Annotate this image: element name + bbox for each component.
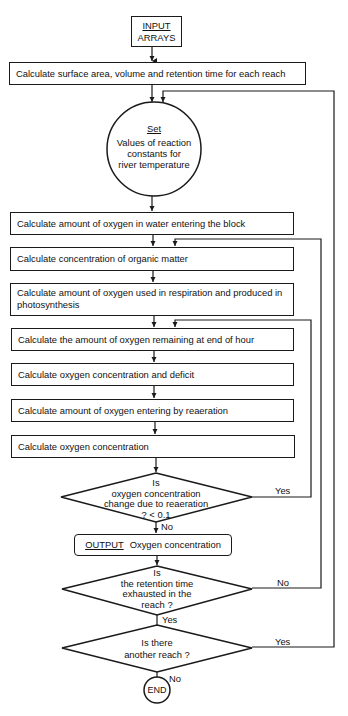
decision-another-reach: Is there another reach ? (107, 637, 207, 661)
set-reaction-constants-circle: Set Values of reaction constants for riv… (107, 123, 201, 170)
step-text: Calculate concentration of organic matte… (17, 253, 188, 265)
decision1-yes-label: Yes (275, 486, 290, 496)
step-oxygen-remaining-box: Calculate the amount of oxygen remaining… (11, 328, 294, 351)
step-reaeration-box: Calculate amount of oxygen entering by r… (11, 399, 294, 422)
step-text: Calculate amount of oxygen in water ente… (17, 218, 245, 230)
input-label: INPUT (142, 20, 170, 32)
step-concentration-deficit-box: Calculate oxygen concentration and defic… (11, 363, 294, 386)
set-line-2: constants for (107, 148, 201, 159)
output-text: Oxygen concentration (130, 539, 221, 551)
arrays-label: ARRAYS (138, 32, 176, 44)
output-keyword: OUTPUT (85, 539, 124, 551)
decision3-yes-label: Yes (275, 637, 290, 647)
decision3-line-2: another reach ? (107, 649, 207, 661)
decision2-line-4: reach ? (97, 600, 217, 611)
decision2-no-label: No (277, 578, 289, 588)
end-terminal: END (144, 685, 170, 696)
step-surface-area-box: Calculate surface area, volume and reten… (9, 62, 306, 85)
decision-reaeration-change: Is oxygen concentration change due to re… (86, 478, 226, 520)
input-arrays-box: INPUT ARRAYS (131, 16, 182, 47)
set-title: Set (107, 123, 201, 134)
step-text: Calculate amount of oxygen used in respi… (17, 287, 287, 311)
step-text: Calculate amount of oxygen entering by r… (18, 405, 228, 417)
decision2-yes-label: Yes (162, 615, 177, 625)
set-line-3: river temperature (107, 159, 201, 170)
decision2-line-3: exhausted in the (97, 589, 217, 600)
decision1-line-1: Is (86, 478, 226, 489)
decision3-no-label: No (169, 674, 181, 684)
decision2-line-1: Is (97, 568, 217, 579)
output-oxygen-concentration-box: OUTPUT Oxygen concentration (74, 534, 232, 556)
step-organic-matter-box: Calculate concentration of organic matte… (10, 247, 294, 271)
step-text: Calculate oxygen concentration (18, 441, 149, 453)
step-text: Calculate oxygen concentration and defic… (18, 369, 194, 381)
step-text: Calculate the amount of oxygen remaining… (18, 334, 254, 346)
step-oxygen-entering-box: Calculate amount of oxygen in water ente… (10, 212, 294, 235)
step-respiration-photosynthesis-box: Calculate amount of oxygen used in respi… (10, 283, 294, 316)
decision3-line-1: Is there (107, 637, 207, 649)
decision1-no-label: No (161, 522, 173, 532)
step-text: Calculate surface area, volume and reten… (16, 68, 285, 80)
decision-retention-time: Is the retention time exhausted in the r… (97, 568, 217, 610)
decision1-line-3: change due to reaeration (86, 499, 226, 510)
step-oxygen-concentration-box: Calculate oxygen concentration (11, 435, 295, 458)
set-line-1: Values of reaction (107, 137, 201, 148)
decision1-line-4: ? < 0.1 (86, 510, 226, 521)
